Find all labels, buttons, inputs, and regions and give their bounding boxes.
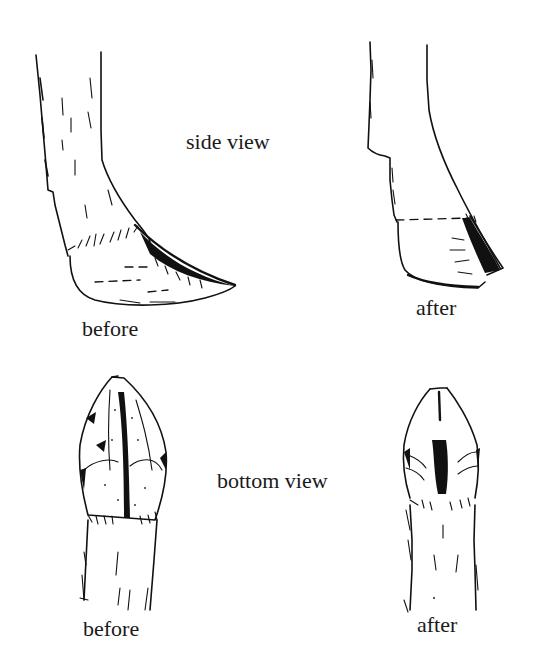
bottom-view-after-hoof-drawing — [403, 388, 480, 612]
hoof-trimming-diagram: side view before after bottom view befor… — [0, 0, 547, 667]
bottom-view-label: bottom view — [217, 470, 328, 492]
bottom-after-caption: after — [417, 614, 457, 636]
bottom-view-before-hoof-drawing — [79, 376, 166, 610]
side-view-label: side view — [186, 131, 270, 153]
side-view-before-hoof-drawing — [36, 52, 235, 305]
bottom-before-caption: before — [83, 618, 139, 640]
side-view-after-hoof-drawing — [368, 42, 503, 288]
side-before-caption: before — [82, 318, 138, 340]
side-after-caption: after — [416, 297, 456, 319]
